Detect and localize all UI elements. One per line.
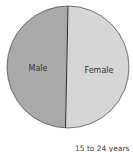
chart-caption: 15 to 24 years bbox=[75, 144, 129, 152]
pie-chart: Male Female bbox=[0, 0, 133, 152]
label-female: Female bbox=[85, 66, 114, 75]
label-male: Male bbox=[29, 64, 48, 73]
